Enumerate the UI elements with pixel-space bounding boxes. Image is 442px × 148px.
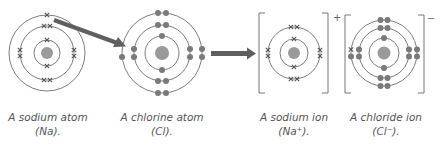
caption-sodium-atom: A sodium atom (Na). [0,110,96,138]
caption-line-1: A sodium ion [252,110,336,124]
electron-dot-icon [163,22,169,28]
nucleus [41,47,53,59]
electron-dot-icon [199,46,205,52]
charge-label: − [427,13,435,24]
sodium-ion: + [259,12,341,93]
electron-dot-icon [378,83,384,89]
electron-dot-icon [348,54,354,60]
electron-dot-icon [159,33,165,39]
sodium-atom [9,13,85,91]
electron-dot-icon [163,90,169,96]
caption-line-1: A sodium atom [0,110,96,124]
electron-dot-icon [381,35,387,41]
electron-dot-icon [378,25,384,31]
nucleus [378,47,391,60]
caption-line-1: A chlorine atom [110,110,214,124]
electron-dot-icon [163,10,169,16]
electron-dot-icon [406,47,412,53]
electron-dot-icon [381,65,387,71]
electron-dot-icon [385,17,391,23]
electron-dot-icon [414,54,420,60]
caption-line-1: A chloride ion [340,110,432,124]
caption-sodium-ion: A sodium ion (Na⁺). [252,110,336,138]
right-bracket [322,13,328,93]
caption-chloride-ion: A chloride ion (Cl⁻). [340,110,432,138]
caption-line-2: (Cl⁻). [340,124,432,138]
electron-dot-icon [199,54,205,60]
electron-dot-icon [378,75,384,81]
caption-line-2: (Cl). [110,124,214,138]
electron-dot-icon [163,78,169,84]
electron-dot-icon [187,46,193,52]
nucleus [288,47,300,59]
electron-dot-icon [356,54,362,60]
electron-dot-icon [155,78,161,84]
chloride-ion: − [345,13,435,93]
electron-dot-icon [155,90,161,96]
electron-dot-icon [155,22,161,28]
electron-dot-icon [385,83,391,89]
electron-dot-icon [155,10,161,16]
charge-label: + [333,12,341,23]
electron-dot-icon [414,47,420,53]
electron-dot-icon [131,54,137,60]
electron-dot-icon [385,25,391,31]
electron-dot-icon [119,54,125,60]
caption-line-2: (Na⁺). [252,124,336,138]
electron-dot-icon [406,54,412,60]
electron-transfer-arrow-icon [54,20,126,47]
electron-dot-icon [356,47,362,53]
reaction-arrow-icon [211,48,256,60]
electron-dot-icon [131,46,137,52]
nucleus [155,46,169,60]
electron-dot-icon [159,67,165,73]
left-bracket [259,13,265,93]
chlorine-atom [119,10,205,96]
caption-chlorine-atom: A chlorine atom (Cl). [110,110,214,138]
caption-line-2: (Na). [0,124,96,138]
electron-dot-icon [187,54,193,60]
electron-dot-icon [385,75,391,81]
electron-dot-icon [378,17,384,23]
right-bracket [418,15,424,93]
